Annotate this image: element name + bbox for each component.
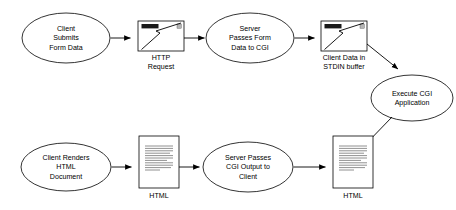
node-client-submits[interactable]: Client Submits Form Data — [22, 13, 110, 63]
node-client-data-stdin[interactable]: Client Data in STDIN buffer — [321, 21, 367, 71]
node-label-line: Data to CGI — [231, 44, 268, 52]
html-document-icon — [333, 136, 373, 188]
node-label-line: Client — [239, 173, 257, 181]
node-label-line: HTML — [56, 163, 75, 171]
window-titlebar — [142, 24, 159, 28]
icon-label-line: HTML — [149, 192, 168, 200]
node-server-passes-form[interactable]: Server Passes Form Data to CGI — [206, 13, 294, 63]
node-execute-cgi[interactable]: Execute CGI Application — [371, 75, 453, 121]
node-label-line: Client Renders — [43, 154, 90, 162]
window-button-icon — [360, 24, 364, 28]
icon-label-line: STDIN buffer — [323, 63, 365, 71]
icon-label-line: HTTP — [152, 54, 171, 62]
node-label-line: Server — [240, 25, 262, 33]
flowchart-canvas: Client Submits Form Data HTTP Request Se… — [0, 0, 456, 210]
window-button-icon — [177, 24, 181, 28]
icon-label-line: HTML — [343, 192, 362, 200]
node-label-line: CGI Output to — [226, 163, 270, 171]
node-client-renders[interactable]: Client Renders HTML Document — [21, 143, 111, 191]
node-label-line: Passes Form — [229, 34, 271, 42]
node-label-line: Client — [57, 25, 75, 33]
node-label-line: Application — [395, 99, 430, 107]
node-html-doc-left[interactable]: HTML — [139, 136, 179, 200]
node-server-passes-output[interactable]: Server Passes CGI Output to Client — [203, 142, 293, 192]
ellipse-shape — [371, 75, 453, 121]
node-label-line: Server Passes — [225, 154, 272, 162]
icon-label-line: Client Data in — [323, 54, 366, 62]
html-document-icon — [139, 136, 179, 188]
node-http-request[interactable]: HTTP Request — [138, 21, 184, 71]
icon-label-line: Request — [148, 63, 174, 71]
node-label-line: Form Data — [49, 44, 83, 52]
edge-stdin-to-execute — [367, 44, 398, 69]
window-titlebar — [325, 24, 342, 28]
node-label-line: Document — [50, 173, 82, 181]
node-html-doc-right[interactable]: HTML — [333, 136, 373, 200]
node-label-line: Submits — [53, 34, 79, 42]
node-label-line: Execute CGI — [392, 90, 432, 98]
